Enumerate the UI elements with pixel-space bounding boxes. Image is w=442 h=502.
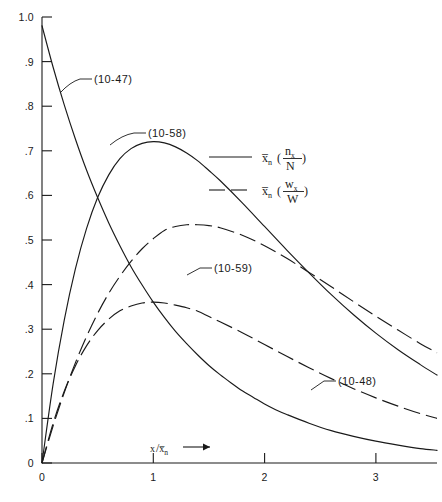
plot-curves bbox=[42, 26, 437, 463]
y-tick-label: .4 bbox=[25, 279, 34, 291]
y-tick-label: .7 bbox=[25, 145, 34, 157]
curve-10-48 bbox=[42, 302, 437, 463]
legend-numerator-number: nx bbox=[285, 144, 295, 160]
chart-svg: 1.0 .9 .8 .7 .6 .5 .4 .3 .2 .1 0 0 1 2 3… bbox=[0, 0, 442, 502]
y-tick-label: 1.0 bbox=[19, 11, 35, 23]
curve-10-47 bbox=[42, 26, 437, 451]
annotation-label: (10-47) bbox=[94, 73, 132, 85]
x-tick-labels: 0 1 2 3 bbox=[39, 471, 379, 483]
legend: x̅n ( nx N ) x̅n ( wx W ) bbox=[209, 144, 308, 206]
y-tick-label: .1 bbox=[25, 412, 34, 424]
x-axis-label: x/x̅n bbox=[150, 441, 210, 457]
y-tick-label: .6 bbox=[25, 189, 34, 201]
annotation-10-59: (10-59) bbox=[187, 262, 252, 275]
y-tick-label: .9 bbox=[25, 56, 34, 68]
legend-paren-open-number: ( bbox=[277, 151, 281, 165]
legend-denominator-weight: W bbox=[287, 192, 299, 206]
legend-numerator-weight: wx bbox=[285, 177, 298, 193]
y-tick-label: .8 bbox=[25, 100, 34, 112]
y-tick-label: 0 bbox=[28, 457, 34, 469]
x-tick-label: 3 bbox=[373, 471, 379, 483]
legend-paren-close-weight: ) bbox=[304, 184, 308, 198]
y-tick-marks bbox=[42, 17, 52, 463]
annotation-10-47: (10-47) bbox=[60, 73, 132, 93]
legend-label-weight: x̅n bbox=[261, 184, 272, 200]
x-axis-arrow bbox=[183, 444, 210, 451]
legend-label-number: x̅n bbox=[261, 151, 272, 167]
legend-paren-close-number: ) bbox=[302, 151, 306, 165]
annotation-label: (10-58) bbox=[148, 127, 186, 139]
annotation-label: (10-59) bbox=[214, 262, 252, 274]
y-tick-labels: 1.0 .9 .8 .7 .6 .5 .4 .3 .2 .1 0 bbox=[19, 11, 35, 469]
y-tick-label: .3 bbox=[25, 323, 34, 335]
y-tick-label: .2 bbox=[25, 368, 34, 380]
legend-entry-number-fraction: x̅n ( nx N ) bbox=[209, 144, 306, 173]
figure-container: 1.0 .9 .8 .7 .6 .5 .4 .3 .2 .1 0 0 1 2 3… bbox=[0, 0, 442, 502]
legend-entry-weight-fraction: x̅n ( wx W ) bbox=[209, 177, 308, 206]
annotation-10-48: (10-48) bbox=[311, 375, 376, 390]
x-tick-marks bbox=[42, 453, 376, 463]
curve-10-59 bbox=[42, 225, 437, 463]
y-tick-label: .5 bbox=[25, 234, 34, 246]
legend-denominator-number: N bbox=[286, 159, 295, 173]
x-tick-label: 2 bbox=[262, 471, 268, 483]
x-tick-label: 0 bbox=[39, 471, 45, 483]
x-tick-label: 1 bbox=[150, 471, 156, 483]
legend-paren-open-weight: ( bbox=[277, 184, 281, 198]
annotation-label: (10-48) bbox=[338, 375, 376, 387]
